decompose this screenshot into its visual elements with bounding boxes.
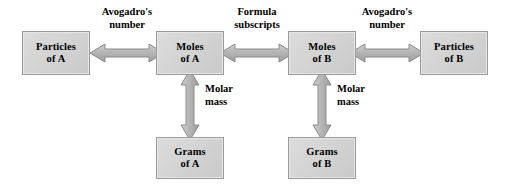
node-moles-of-b-line2: of B: [313, 53, 332, 66]
edge-label-molar-mass-a-line1: Molar: [205, 83, 265, 96]
node-particles-of-a-line1: Particles: [36, 41, 76, 54]
edge-label-molar-mass-a: Molar mass: [205, 83, 265, 108]
node-particles-of-b: Particles of B: [420, 31, 488, 75]
edge-label-molar-mass-a-line2: mass: [205, 96, 265, 109]
mole-conversion-diagram: Particles of A Moles of A Moles of B Par…: [0, 0, 508, 187]
edge-label-avogadro-number-left-line2: number: [82, 19, 172, 32]
edge-label-avogadro-number-right: Avogadro's number: [342, 6, 432, 31]
node-moles-of-a: Moles of A: [156, 31, 224, 75]
node-moles-of-a-line2: of A: [181, 53, 200, 66]
node-moles-of-a-line1: Moles: [176, 41, 203, 54]
edge-label-formula-subscripts-line2: subscripts: [212, 19, 302, 32]
edge-label-avogadro-number-left: Avogadro's number: [82, 6, 172, 31]
node-particles-of-b-line1: Particles: [434, 41, 474, 54]
node-grams-of-b-line2: of B: [313, 158, 332, 171]
arrow-moles-a-to-grams-a: [178, 68, 202, 142]
edge-label-avogadro-number-left-line1: Avogadro's: [82, 6, 172, 19]
node-grams-of-a-line2: of A: [181, 158, 200, 171]
edge-label-molar-mass-b-line1: Molar: [337, 83, 397, 96]
arrow-moles-b-to-grams-b: [310, 68, 334, 142]
node-moles-of-b-line1: Moles: [308, 41, 335, 54]
node-particles-of-b-line2: of B: [445, 53, 464, 66]
node-grams-of-b-line1: Grams: [306, 146, 337, 159]
edge-label-molar-mass-b-line2: mass: [337, 96, 397, 109]
node-grams-of-a: Grams of A: [156, 137, 224, 179]
edge-label-formula-subscripts: Formula subscripts: [212, 6, 302, 31]
node-particles-of-a: Particles of A: [22, 31, 90, 75]
edge-label-avogadro-number-right-line1: Avogadro's: [342, 6, 432, 19]
arrow-moles-b-to-particles-b: [348, 41, 426, 65]
edge-label-avogadro-number-right-line2: number: [342, 19, 432, 32]
node-particles-of-a-line2: of A: [47, 53, 66, 66]
edge-label-molar-mass-b: Molar mass: [337, 83, 397, 108]
node-grams-of-a-line1: Grams: [174, 146, 205, 159]
node-grams-of-b: Grams of B: [288, 137, 356, 179]
arrow-moles-a-to-moles-b: [218, 41, 296, 65]
arrow-particles-a-to-moles-a: [88, 41, 166, 65]
edge-label-formula-subscripts-line1: Formula: [212, 6, 302, 19]
node-moles-of-b: Moles of B: [288, 31, 356, 75]
